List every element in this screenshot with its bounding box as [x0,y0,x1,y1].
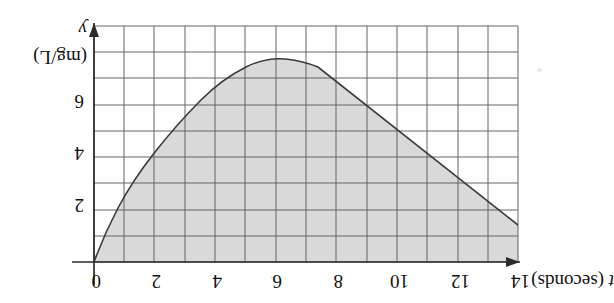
y-tick-label-4: 4 [75,144,85,163]
scan-speckle [537,68,542,72]
y-tick-label-6: 6 [75,92,85,111]
x-tick-label-8: 8 [334,272,344,291]
x-tick-label-4: 4 [213,272,223,291]
x-axis-variable: t [609,271,614,292]
y-axis-variable-label: y [79,20,87,39]
y-tick-label-2: 2 [75,196,85,215]
x-tick-label-6: 6 [273,272,283,291]
y-axis [89,23,99,285]
x-tick-label-0: 0 [92,272,102,291]
scan-speckle [270,276,273,279]
x-axis-unit: (seconds) [531,271,604,292]
x-tick-label-2: 2 [152,272,162,291]
y-axis-arrowhead [89,23,99,37]
x-tick-label-10: 10 [390,272,409,291]
x-tick-label-14: 14 [511,272,530,291]
y-axis-unit-label: (mg/L) [33,48,87,67]
x-axis-label: t (seconds) [531,272,614,291]
x-tick-label-12: 12 [451,272,470,291]
y-axis-unit: (mg/L) [33,47,87,68]
